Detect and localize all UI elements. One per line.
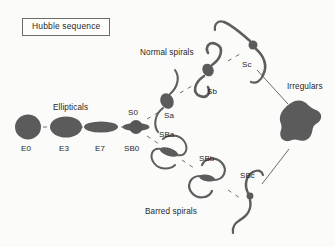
- class-label-sa: Sa: [164, 112, 174, 120]
- group-label-barred-spirals: Barred spirals: [145, 208, 197, 216]
- connector-sc-irregulars: [257, 70, 288, 104]
- class-label-sba: SBa: [159, 131, 174, 139]
- connector-sbb-sbc: [228, 190, 240, 198]
- galaxy-sba: [152, 135, 187, 168]
- class-label-sbb: SBb: [199, 155, 214, 163]
- diagram-title-box: Hubble sequence: [22, 18, 110, 36]
- class-label-sbc: SBc: [240, 172, 255, 180]
- galaxy-e0: [15, 115, 41, 140]
- connector-sbc-irregulars: [262, 149, 289, 184]
- hubble-sequence-diagram: Hubble sequence Ellipticals Normal spira…: [0, 0, 335, 247]
- galaxy-e7: [84, 122, 118, 133]
- class-label-e0: E0: [21, 145, 31, 153]
- galaxy-e3: [50, 117, 82, 138]
- galaxy-sbb: [189, 159, 225, 198]
- class-label-sb0: SB0: [124, 145, 139, 153]
- group-label-normal-spirals: Normal spirals: [140, 49, 194, 57]
- connector-sa-sb: [180, 86, 192, 93]
- class-label-s0: S0: [128, 109, 138, 117]
- connector-sb-sc: [228, 54, 240, 61]
- galaxy-irregulars: [280, 101, 321, 142]
- galaxy-sc: [215, 21, 265, 82]
- class-label-sb: Sb: [207, 88, 217, 96]
- class-label-sc: Sc: [242, 61, 252, 69]
- galaxy-sa: [155, 70, 177, 132]
- class-label-e3: E3: [59, 145, 69, 153]
- connector-sb0-sba: [147, 136, 159, 144]
- connector-sba-sbb: [182, 160, 194, 168]
- class-label-e7: E7: [95, 145, 105, 153]
- group-label-ellipticals: Ellipticals: [53, 104, 88, 112]
- galaxy-s0-sb0: [123, 120, 150, 134]
- group-label-irregulars: Irregulars: [287, 83, 323, 91]
